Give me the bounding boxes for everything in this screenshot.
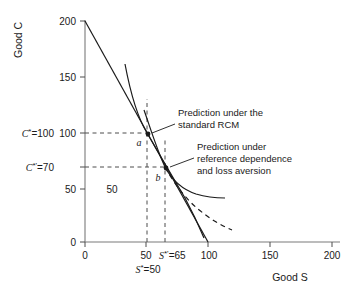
y-tick-label-0: 0 [70,237,76,248]
s-star-prime-label: S*'=65 [159,249,186,261]
y-tick-label-100: 100 [59,128,76,139]
annotation-standard-rcm-leader [152,124,175,133]
annotation-reference-dependence-line2: reference dependence [197,153,292,164]
c-star-value: =100 [31,128,54,139]
x-tick-label-50: 50 [140,250,152,261]
region-label-50: 50 [106,184,118,195]
annotation-reference-dependence-line1: Prediction under [197,141,266,152]
point-a-marker [146,132,151,137]
indifference-curve-chart: 200 150 100 50 0 C*=100 C*'=70 0 50 100 … [0,0,351,292]
c-star-prime-label: C*'=70 [26,161,55,173]
x-tick-label-200: 200 [324,250,341,261]
y-tick-label-50: 50 [65,184,77,195]
s-star-prime-value: =65 [169,250,186,261]
c-star-prime-value: =70 [37,162,54,173]
point-b-label: b [156,172,161,183]
axes-group [85,20,340,242]
c-star-label: C*=100 [22,127,55,139]
y-axis-ticks [80,21,85,242]
x-axis-title: Good S [272,271,308,283]
annotation-reference-dependence-line3: and loss aversion [197,165,271,176]
y-tick-label-150: 150 [59,72,76,83]
point-b-marker [164,166,169,171]
annotation-standard-rcm-line1: Prediction under the [178,107,263,118]
x-tick-label-0: 0 [82,250,88,261]
chart-figure: 200 150 100 50 0 C*=100 C*'=70 0 50 100 … [0,0,351,292]
point-a-label: a [137,137,142,148]
x-tick-label-150: 150 [262,250,279,261]
reference-guide-lines [85,99,165,242]
s-star-label: S*=50 [135,263,161,275]
annotation-reference-dependence-leader [170,158,194,167]
x-tick-label-100: 100 [201,250,218,261]
y-axis-title: Good C [12,21,24,58]
y-tick-label-200: 200 [59,16,76,27]
x-axis-ticks [85,242,332,247]
annotation-standard-rcm-line2: standard RCM [178,119,239,130]
s-star-value: =50 [144,264,161,275]
